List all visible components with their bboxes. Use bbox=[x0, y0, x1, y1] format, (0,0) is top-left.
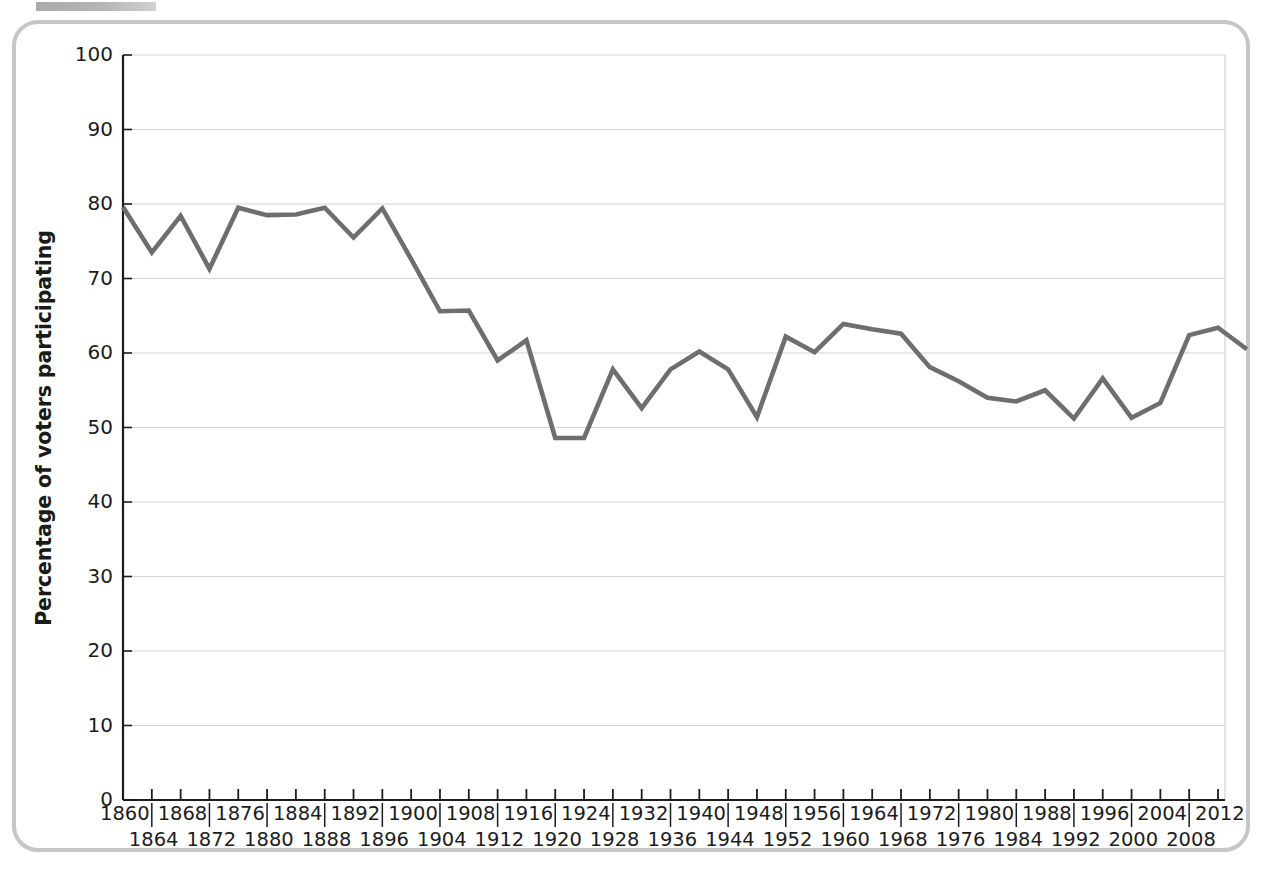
x-tick-label-1908: 1908 bbox=[446, 802, 496, 825]
x-tick-label-1952: 1952 bbox=[763, 828, 813, 851]
x-tick-label-1928: 1928 bbox=[590, 828, 640, 851]
y-tick-label-60: 60 bbox=[57, 340, 113, 364]
x-tick-label-1972: 1972 bbox=[907, 802, 957, 825]
x-tick-label-1884: 1884 bbox=[273, 802, 323, 825]
x-tick-label-2004: 2004 bbox=[1137, 802, 1187, 825]
y-tick-label-50: 50 bbox=[57, 415, 113, 439]
x-tick-label-1948: 1948 bbox=[734, 802, 784, 825]
x-tick-label-1976: 1976 bbox=[936, 828, 986, 851]
x-tick-label-1904: 1904 bbox=[417, 828, 467, 851]
x-tick-label-1992: 1992 bbox=[1051, 828, 1101, 851]
y-tick-label-90: 90 bbox=[57, 117, 113, 141]
y-tick-label-70: 70 bbox=[57, 266, 113, 290]
y-tick-label-10: 10 bbox=[57, 713, 113, 737]
gridlines-group bbox=[123, 55, 1225, 800]
x-tick-label-1876: 1876 bbox=[215, 802, 265, 825]
x-tick-label-1980: 1980 bbox=[964, 802, 1014, 825]
x-tick-label-1912: 1912 bbox=[475, 828, 525, 851]
x-tick-label-1892: 1892 bbox=[331, 802, 381, 825]
x-tick-label-1920: 1920 bbox=[532, 828, 582, 851]
x-tick-label-1860: 1860 bbox=[100, 802, 150, 825]
x-tick-label-1968: 1968 bbox=[878, 828, 928, 851]
x-tick-label-2008: 2008 bbox=[1166, 828, 1216, 851]
x-tick-label-1888: 1888 bbox=[302, 828, 352, 851]
y-tick-label-40: 40 bbox=[57, 489, 113, 513]
x-tick-label-1864: 1864 bbox=[129, 828, 179, 851]
x-tick-label-1940: 1940 bbox=[676, 802, 726, 825]
x-tick-label-2012: 2012 bbox=[1195, 802, 1245, 825]
y-tick-label-20: 20 bbox=[57, 638, 113, 662]
x-tick-label-1984: 1984 bbox=[993, 828, 1043, 851]
x-tick-label-1964: 1964 bbox=[849, 802, 899, 825]
x-tick-label-1924: 1924 bbox=[561, 802, 611, 825]
data-series-group bbox=[123, 207, 1247, 438]
x-tick-label-1868: 1868 bbox=[158, 802, 208, 825]
x-tick-label-1932: 1932 bbox=[619, 802, 669, 825]
x-tick-label-2000: 2000 bbox=[1109, 828, 1159, 851]
line-chart-plot bbox=[0, 0, 1284, 885]
x-tick-label-1872: 1872 bbox=[186, 828, 236, 851]
x-tick-label-1916: 1916 bbox=[503, 802, 553, 825]
x-tick-label-1944: 1944 bbox=[705, 828, 755, 851]
y-tick-label-30: 30 bbox=[57, 564, 113, 588]
x-tick-label-1896: 1896 bbox=[359, 828, 409, 851]
x-tick-label-1880: 1880 bbox=[244, 828, 294, 851]
x-tick-label-1936: 1936 bbox=[648, 828, 698, 851]
chart-figure: Percentage of voters participating 01020… bbox=[0, 0, 1284, 885]
voter-participation-line bbox=[123, 207, 1247, 438]
x-tick-label-1996: 1996 bbox=[1080, 802, 1130, 825]
y-tick-label-100: 100 bbox=[57, 42, 113, 66]
x-tick-label-1956: 1956 bbox=[792, 802, 842, 825]
y-tick-label-80: 80 bbox=[57, 191, 113, 215]
x-tick-label-1900: 1900 bbox=[388, 802, 438, 825]
x-tick-label-1988: 1988 bbox=[1022, 802, 1072, 825]
x-tick-label-1960: 1960 bbox=[820, 828, 870, 851]
